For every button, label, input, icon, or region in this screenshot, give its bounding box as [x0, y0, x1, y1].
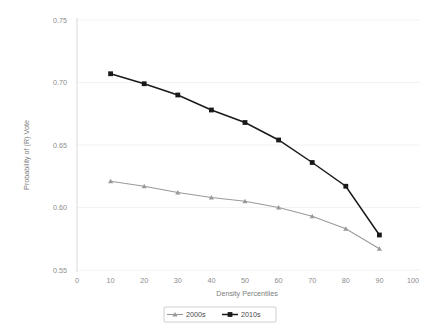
legend-marker-2010s	[228, 312, 233, 317]
x-tick-label: 30	[174, 276, 182, 285]
x-tick-label: 40	[207, 276, 215, 285]
data-point-marker	[175, 93, 180, 98]
data-point-marker	[108, 71, 113, 76]
chart-legend: 2000s2010s	[164, 307, 276, 322]
y-axis-title: Probability of (R) Vote	[22, 120, 31, 190]
data-point-marker	[310, 160, 315, 165]
x-tick-label: 0	[75, 276, 79, 285]
x-tick-label: 90	[375, 276, 383, 285]
y-tick-label: 0.75	[53, 16, 67, 25]
legend-label-2010s: 2010s	[241, 310, 261, 319]
x-axis-title: Density Percentiles	[216, 289, 278, 298]
x-tick-label: 10	[107, 276, 115, 285]
y-tick-label: 0.55	[53, 266, 67, 275]
y-tick-label: 0.70	[53, 78, 67, 87]
x-tick-label: 80	[342, 276, 350, 285]
chart-background	[0, 0, 437, 331]
x-tick-label: 50	[241, 276, 249, 285]
x-tick-label: 20	[140, 276, 148, 285]
data-point-marker	[209, 108, 214, 113]
data-point-marker	[343, 184, 348, 189]
data-point-marker	[243, 120, 248, 125]
data-point-marker	[142, 81, 147, 86]
chart-container: 0.550.600.650.700.75 0102030405060708090…	[0, 0, 437, 331]
x-tick-label: 70	[308, 276, 316, 285]
data-point-marker	[377, 233, 382, 238]
y-tick-label: 0.65	[53, 141, 67, 150]
line-chart: 0.550.600.650.700.75 0102030405060708090…	[0, 0, 437, 331]
x-tick-label: 100	[407, 276, 419, 285]
data-point-marker	[276, 138, 281, 143]
y-tick-label: 0.60	[53, 203, 67, 212]
legend-label-2000s: 2000s	[186, 310, 206, 319]
x-tick-label: 60	[275, 276, 283, 285]
